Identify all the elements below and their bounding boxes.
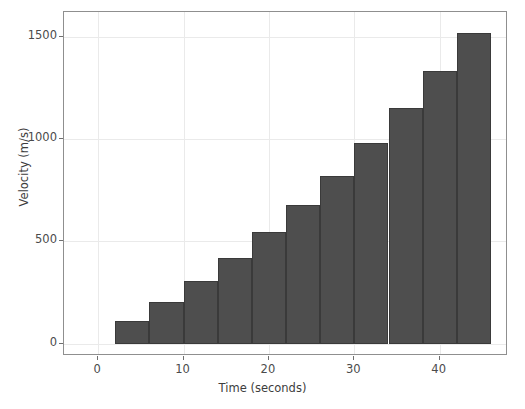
chart-figure: 050010001500 010203040 Time (seconds) Ve… bbox=[0, 0, 525, 409]
y-axis-tick bbox=[59, 240, 63, 241]
bar bbox=[115, 321, 149, 344]
bar bbox=[354, 143, 388, 344]
bar bbox=[389, 108, 423, 344]
plot-area bbox=[63, 11, 507, 355]
bar-series bbox=[64, 12, 506, 354]
bar bbox=[149, 302, 183, 344]
x-axis-tick-label: 10 bbox=[175, 364, 190, 376]
x-axis-tick bbox=[439, 356, 440, 360]
y-axis-tick bbox=[59, 36, 63, 37]
x-axis-tick-label: 0 bbox=[94, 364, 101, 376]
bar bbox=[184, 281, 218, 344]
x-axis-tick-label: 30 bbox=[346, 364, 361, 376]
bar bbox=[218, 258, 252, 344]
y-axis-tick-label: 1500 bbox=[28, 30, 57, 42]
x-axis-tick bbox=[183, 356, 184, 360]
y-axis-tick bbox=[59, 343, 63, 344]
x-axis-tick bbox=[353, 356, 354, 360]
x-axis-tick bbox=[268, 356, 269, 360]
bar bbox=[252, 232, 286, 344]
x-axis-tick bbox=[97, 356, 98, 360]
y-axis-label: Velocity (m/s) bbox=[17, 77, 31, 257]
y-axis-tick-label: 1000 bbox=[28, 132, 57, 144]
x-axis-tick-label: 40 bbox=[431, 364, 446, 376]
y-axis-tick-label: 0 bbox=[50, 337, 57, 349]
y-axis-tick bbox=[59, 138, 63, 139]
y-axis-tick-label: 500 bbox=[35, 234, 57, 246]
bar bbox=[320, 176, 354, 344]
bar bbox=[286, 205, 320, 344]
x-axis-tick-label: 20 bbox=[261, 364, 276, 376]
x-axis-label: Time (seconds) bbox=[0, 381, 525, 395]
bar bbox=[457, 33, 491, 344]
bar bbox=[423, 71, 457, 343]
